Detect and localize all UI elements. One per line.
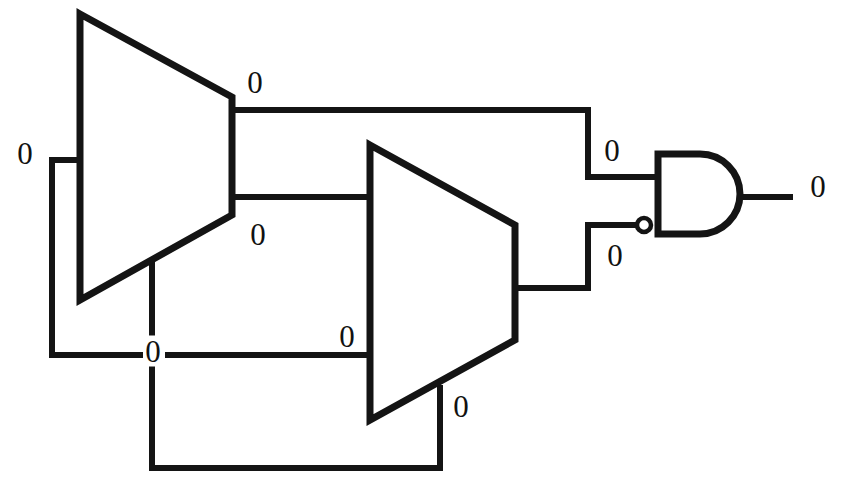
signal-label-mux1-output-bottom: 0 <box>248 219 268 250</box>
inversion-bubble-icon <box>637 218 651 232</box>
signal-label-mux2-select: 0 <box>451 391 471 422</box>
wire-mux1-output-top <box>228 110 658 177</box>
signal-label-mux1-select: 0 <box>143 336 163 367</box>
signal-label-mux2-input-bottom: 0 <box>337 321 357 352</box>
multiplexer-1[interactable] <box>80 14 232 300</box>
signal-label-mux1-output-top: 0 <box>245 67 265 98</box>
and-gate[interactable] <box>658 154 740 234</box>
circuit-schematic-svg <box>0 0 843 494</box>
circuit-diagram-canvas: 0 0 0 0 0 0 0 0 0 <box>0 0 843 494</box>
signal-label-input-left: 0 <box>15 138 35 169</box>
signal-label-and-output: 0 <box>808 171 828 202</box>
multiplexer-2[interactable] <box>370 145 515 420</box>
component-layer <box>80 14 740 420</box>
signal-label-and-input-bottom: 0 <box>605 240 625 271</box>
signal-label-and-input-top: 0 <box>602 135 622 166</box>
